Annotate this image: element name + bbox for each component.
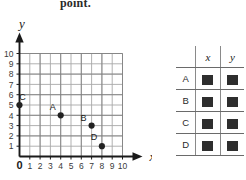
y-tick-label-8: 8 xyxy=(9,69,14,79)
table-cell-a-x[interactable] xyxy=(196,68,220,90)
axes xyxy=(15,33,142,161)
blank-answer-box[interactable] xyxy=(202,141,213,151)
table-row: B xyxy=(176,90,244,112)
point-label-D: D xyxy=(91,132,98,142)
blank-answer-box[interactable] xyxy=(202,75,213,85)
y-tick-label-9: 9 xyxy=(9,59,14,69)
y-tick-label-6: 6 xyxy=(9,90,14,100)
y-axis-arrow xyxy=(15,33,23,43)
blank-answer-box[interactable] xyxy=(227,119,238,129)
y-tick-label-10: 10 xyxy=(4,49,14,59)
table-cell-d-x[interactable] xyxy=(196,134,220,156)
x-tick-label-9: 9 xyxy=(110,161,115,171)
y-tick-label-3: 3 xyxy=(9,121,14,131)
table-row-label-B: B xyxy=(176,90,196,112)
table-cell-d-y[interactable] xyxy=(220,134,244,156)
table-cell-a-y[interactable] xyxy=(220,68,244,90)
x-tick-label-5: 5 xyxy=(69,161,74,171)
table-row-label-C: C xyxy=(176,112,196,134)
x-tick-label-1: 1 xyxy=(27,161,32,171)
table-header-y: y xyxy=(220,46,244,68)
blank-answer-box[interactable] xyxy=(227,75,238,85)
point-label-B: B xyxy=(81,113,87,123)
x-tick-label-2: 2 xyxy=(38,161,43,171)
table-row-label-D: D xyxy=(176,134,196,156)
y-axis-label: y xyxy=(17,16,25,31)
table-body: ABCD xyxy=(176,68,244,156)
table-corner-cell xyxy=(176,46,196,68)
answer-table-grid: x y ABCD xyxy=(176,46,244,156)
blank-answer-box[interactable] xyxy=(202,97,213,107)
x-tick-label-4: 4 xyxy=(58,161,63,171)
tick-labels: 01234567891012345678910 xyxy=(4,49,127,171)
x-axis-arrow xyxy=(133,152,143,160)
x-tick-label-3: 3 xyxy=(48,161,53,171)
x-tick-label-8: 8 xyxy=(100,161,105,171)
table-header-row: x y xyxy=(176,46,244,68)
table-cell-b-x[interactable] xyxy=(196,90,220,112)
table-cell-b-y[interactable] xyxy=(220,90,244,112)
point-label-A: A xyxy=(50,102,56,112)
blank-answer-box[interactable] xyxy=(227,141,238,151)
y-tick-label-4: 4 xyxy=(9,111,14,121)
table-row: D xyxy=(176,134,244,156)
table-cell-c-x[interactable] xyxy=(196,112,220,134)
plotted-point-A xyxy=(58,112,64,118)
table-row: C xyxy=(176,112,244,134)
point-label-C: C xyxy=(19,92,26,102)
x-tick-label-7: 7 xyxy=(89,161,94,171)
x-tick-label-0: 0 xyxy=(16,159,22,171)
axis-labels: yx xyxy=(17,16,152,165)
plotted-point-C xyxy=(16,102,22,108)
blank-answer-box[interactable] xyxy=(202,119,213,129)
coordinates-answer-table: x y ABCD xyxy=(176,46,244,156)
coordinate-graph: 01234567891012345678910 ABCD yx xyxy=(0,0,152,180)
y-tick-label-5: 5 xyxy=(9,100,14,110)
table-row: A xyxy=(176,68,244,90)
y-tick-label-2: 2 xyxy=(9,131,14,141)
x-tick-label-10: 10 xyxy=(118,161,128,171)
plotted-point-B xyxy=(89,123,95,129)
x-tick-label-6: 6 xyxy=(79,161,84,171)
table-header-x: x xyxy=(196,46,220,68)
graph-canvas: 01234567891012345678910 ABCD yx xyxy=(0,0,152,180)
blank-answer-box[interactable] xyxy=(227,97,238,107)
table-row-label-A: A xyxy=(176,68,196,90)
y-tick-label-1: 1 xyxy=(9,141,14,151)
grid-lines xyxy=(20,54,123,157)
x-axis-label: x xyxy=(149,149,153,164)
plotted-point-D xyxy=(99,143,105,149)
table-cell-c-y[interactable] xyxy=(220,112,244,134)
y-tick-label-7: 7 xyxy=(9,80,14,90)
